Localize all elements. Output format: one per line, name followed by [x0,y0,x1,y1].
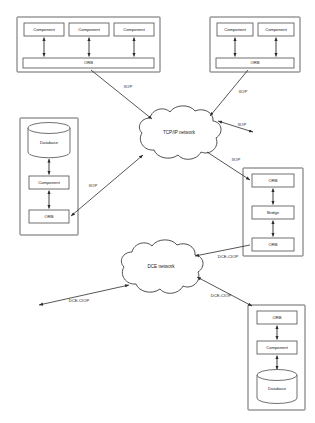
panel-top-left-orb-domain: Component Component Component ORB [17,17,160,72]
edge-tcpip-to-external: IIOP [218,121,253,132]
panel-right-bridge-node: ORB Bridge ORB [243,168,303,256]
orb-label: ORB [44,214,53,219]
edge-dce-to-bottomright: DCE-CIOP [197,277,252,306]
bridge-label: Bridge [267,210,280,215]
component-label: Component [38,180,60,185]
edge-label: IIOP [89,183,98,188]
cloud-tcpip: TCP/IP network [139,106,221,159]
edge-dce-to-external: DCE-CIOP [39,285,129,305]
edge-label: IIOP [239,89,248,94]
orb-label: ORB [268,178,277,183]
edge-label: DCE-CIOP [218,254,239,259]
cloud-label: TCP/IP network [163,130,196,135]
edge-topright-to-tcpip: IIOP [210,70,248,116]
edge-label: IIOP [124,84,133,89]
orb-label: ORB [272,315,281,320]
diagram-canvas: Component Component Component ORB Compon… [0,0,315,423]
edge-label: IIOP [232,157,241,162]
database-label: Database [268,386,287,391]
database-label: Database [40,140,59,145]
orb-bus-label: ORB [250,60,259,65]
edge-label: IIOP [238,122,247,127]
panel-left-database-node: Database Component ORB [20,118,78,235]
panel-top-right-orb-domain: Component Component ORB [210,17,300,72]
orb-bus-label: ORB [84,60,93,65]
edge-leftnode-to-tcpip: IIOP [71,155,143,216]
component-label: Component [224,27,246,32]
edge-bridge-to-dce: DCE-CIOP [195,245,250,259]
component-label: Component [123,27,145,32]
diagram-svg: Component Component Component ORB Compon… [0,0,315,423]
orb-label: ORB [268,242,277,247]
edge-label: DCE-CIOP [211,293,232,298]
panel-bottom-right-database-node: ORB Component Database [248,305,305,410]
component-label: Component [33,27,55,32]
edge-tcpip-to-bridge: IIOP [207,152,250,180]
component-label: Component [265,27,287,32]
component-label: Component [266,345,288,350]
cloud-label: DCE network [147,264,175,269]
edge-topleft-to-tcpip: IIOP [91,70,152,119]
cloud-dce: DCE network [121,240,203,293]
component-label: Component [78,27,100,32]
edge-label: DCE-CIOP [69,298,90,303]
